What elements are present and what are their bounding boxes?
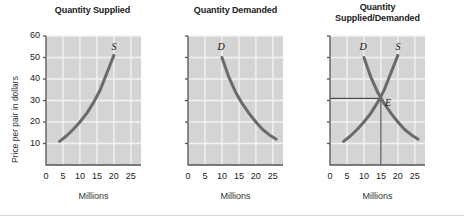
- x-axis-label: Millions: [320, 191, 435, 201]
- x-tick-label: 25: [404, 171, 426, 181]
- figure-supply-demand-charts: Quantity Supplied102030405060Price per p…: [0, 0, 464, 216]
- annotation-label-equilibrium: E: [385, 97, 391, 108]
- plot-area-3: [0, 0, 464, 216]
- curve-label-s: S: [396, 41, 401, 52]
- chart-panel-3: QuantitySupplied/Demanded0510152025Milli…: [0, 0, 464, 216]
- footer-divider: [0, 215, 464, 216]
- curve-label-d: D: [360, 41, 367, 52]
